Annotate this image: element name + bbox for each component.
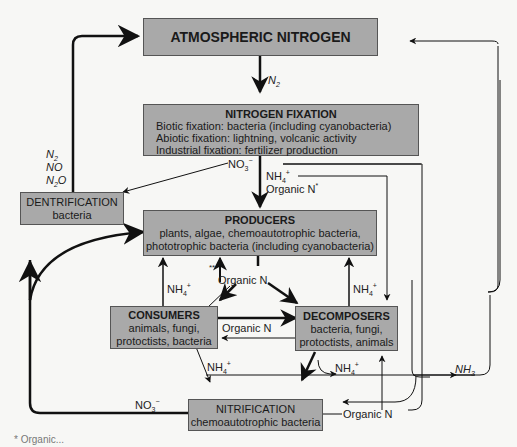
label-nh4-lower-right: NH4+ xyxy=(335,362,359,374)
denitrification-sub: bacteria xyxy=(21,209,123,222)
nitrogen-fixation-title: NITROGEN FIXATION xyxy=(144,108,418,120)
denitrification-title: DENTRIFICATION xyxy=(21,196,123,209)
producers-box: PRODUCERS plants, algae, chemoautotrophi… xyxy=(143,210,377,256)
decomposers-line-2: protoctists, animals xyxy=(296,336,397,349)
nitrification-sub: chemoautotrophic bacteria xyxy=(189,416,322,429)
label-organic-n-star: Organic N* xyxy=(266,183,318,195)
atmospheric-nitrogen-box: ATMOSPHERIC NITROGEN xyxy=(143,18,378,56)
decomposers-line-1: bacteria, fungi, xyxy=(296,323,397,336)
consumers-box: CONSUMERS animals, fungi, protoctists, b… xyxy=(110,306,218,349)
industrial-fixation-text: Industrial fixation: fertilizer producti… xyxy=(156,144,418,156)
label-nh3: NH3 xyxy=(455,363,475,375)
nitrogen-fixation-box: NITROGEN FIXATION Biotic fixation: bacte… xyxy=(143,104,419,156)
producers-line-2: phototrophic bacteria (including cyanoba… xyxy=(144,240,376,253)
label-no3-top: NO3− xyxy=(228,158,253,170)
footnote: * Organic... xyxy=(14,434,64,446)
label-nh4-lower-left: NH4+ xyxy=(207,361,231,373)
label-organic-n-bottom: Organic N xyxy=(343,408,393,420)
consumers-title: CONSUMERS xyxy=(111,309,217,322)
label-denit-n2: N2 xyxy=(46,148,58,160)
decomposers-box: DECOMPOSERS bacteria, fungi, protoctists… xyxy=(295,306,398,351)
label-organic-n-mid: Organic N xyxy=(222,322,272,334)
producers-title: PRODUCERS xyxy=(144,214,376,227)
nitrification-title: NITRIFICATION xyxy=(189,403,322,416)
label-double-star: ** xyxy=(209,262,215,274)
label-denit-no: NO xyxy=(46,161,63,173)
denitrification-box: DENTRIFICATION bacteria xyxy=(20,192,124,225)
label-nh4-right: NH4+ xyxy=(353,283,377,295)
label-organic-n-center: Organic N xyxy=(218,274,268,286)
consumers-line-1: animals, fungi, xyxy=(111,322,217,335)
label-nh4-top: NH4+ xyxy=(266,170,290,182)
abiotic-fixation-text: Abiotic fixation: lightning, volcanic ac… xyxy=(156,132,418,144)
label-denit-n2o: N2O xyxy=(46,174,66,186)
consumers-line-2: protoctists, bacteria xyxy=(111,335,217,348)
label-nh4-left: NH4+ xyxy=(167,283,191,295)
decomposers-title: DECOMPOSERS xyxy=(296,310,397,323)
label-n2-atmospheric: N2 xyxy=(268,74,280,86)
label-no3-bottom: NO3− xyxy=(135,399,160,411)
atmospheric-nitrogen-title: ATMOSPHERIC NITROGEN xyxy=(170,29,350,45)
producers-line-1: plants, algae, chemoautotrophic bacteria… xyxy=(144,227,376,240)
biotic-fixation-text: Biotic fixation: bacteria (including cya… xyxy=(156,120,418,132)
nitrification-box: NITRIFICATION chemoautotrophic bacteria xyxy=(188,399,323,431)
